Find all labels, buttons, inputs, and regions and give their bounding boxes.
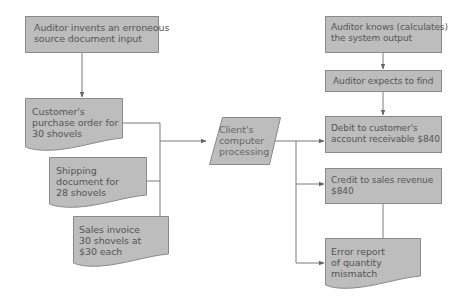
line: the system output: [331, 33, 448, 44]
node-knows-label: Auditor knows (calculates) the system ou…: [331, 22, 448, 44]
line: $840: [331, 186, 433, 197]
node-expects-label: Auditor expects to find: [333, 76, 433, 87]
line: document for: [56, 176, 119, 187]
line: Error report: [331, 246, 385, 257]
line: 30 shovels: [32, 128, 118, 139]
line: Customer's: [32, 106, 118, 117]
node-debit-label: Debit to customer's account receivable $…: [331, 123, 440, 145]
line: purchase order for: [32, 117, 118, 128]
line: source document input: [34, 33, 169, 44]
line: Auditor expects to find: [333, 76, 433, 87]
line: Credit to sales revenue: [331, 175, 433, 186]
line: Auditor knows (calculates): [331, 22, 448, 33]
line: Auditor invents an erroneous: [34, 22, 169, 33]
node-invent-label: Auditor invents an erroneous source docu…: [34, 22, 169, 44]
line: 30 shovels at: [79, 235, 141, 246]
line: 28 shovels: [56, 187, 119, 198]
line: processing: [219, 146, 269, 157]
line: mismatch: [331, 268, 385, 279]
line: Sales invoice: [79, 224, 141, 235]
line: Debit to customer's: [331, 123, 440, 134]
node-invoice-label: Sales invoice 30 shovels at $30 each: [79, 224, 141, 257]
line: account receivable $840: [331, 134, 440, 145]
line: Client's: [219, 124, 269, 135]
line: Shipping: [56, 165, 119, 176]
line: computer: [219, 135, 269, 146]
edge-processing-bus: [296, 141, 324, 263]
line: $30 each: [79, 246, 141, 257]
node-credit-label: Credit to sales revenue $840: [331, 175, 433, 197]
node-shipping-label: Shipping document for 28 shovels: [56, 165, 119, 198]
line: of quantity: [331, 257, 385, 268]
node-purchase-order-label: Customer's purchase order for 30 shovels: [32, 106, 118, 139]
node-processing-label: Client's computer processing: [219, 124, 269, 157]
node-error-label: Error report of quantity mismatch: [331, 246, 385, 279]
